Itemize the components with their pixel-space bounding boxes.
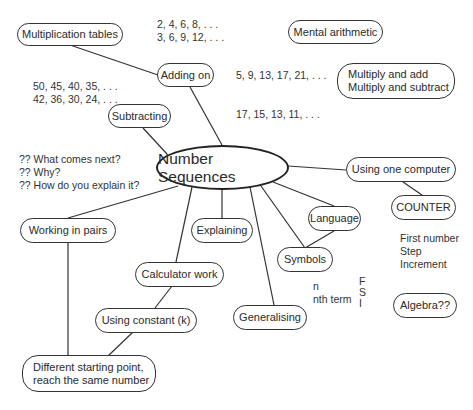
note-sequence-5-9: 5, 9, 13, 17, 21, . . .	[236, 69, 326, 82]
note-line: 3, 6, 9, 12, . . .	[157, 31, 224, 44]
different-starting-line1: Different starting point,	[33, 361, 143, 374]
edge-computer-counter	[403, 182, 422, 195]
edge-center-computer	[288, 166, 346, 170]
note-line: Step	[400, 245, 459, 258]
note-line: n	[313, 280, 352, 293]
different-starting-line2: reach the same number	[33, 374, 149, 387]
node-multiply-add-subtract: Multiply and add Multiply and subtract	[337, 63, 455, 99]
edge-center-calculator	[176, 187, 192, 262]
note-line: 2, 4, 6, 8, . . .	[157, 18, 224, 31]
node-mental-arithmetic: Mental arithmetic	[288, 20, 383, 44]
note-counter-params: First number Step Increment	[400, 232, 459, 271]
multiply-subtract-label: Multiply and subtract	[348, 81, 449, 94]
node-symbols: Symbols	[277, 247, 333, 272]
edge-adding-center	[190, 87, 222, 145]
note-line: 50, 45, 40, 35, . . .	[33, 80, 118, 93]
note-questions: ?? What comes next? ?? Why? ?? How do yo…	[19, 153, 139, 192]
node-multiplication-tables: Multiplication tables	[17, 23, 123, 46]
note-line: First number	[400, 232, 459, 245]
node-counter: COUNTER	[391, 195, 456, 220]
node-language: Language	[308, 206, 361, 231]
node-different-starting-point: Different starting point, reach the same…	[22, 355, 156, 392]
note-line: I	[359, 298, 366, 309]
node-explaining: Explaining	[191, 218, 253, 243]
note-nth-term: n nth term	[313, 280, 352, 306]
edge-calculator-constant	[155, 286, 172, 308]
edge-center-symbols	[261, 186, 305, 248]
note-line: Increment	[400, 258, 459, 271]
node-calculator-work: Calculator work	[135, 262, 224, 287]
node-subtracting: Subtracting	[108, 104, 171, 128]
edge-constant-different	[108, 332, 133, 356]
node-algebra: Algebra??	[393, 293, 457, 318]
node-number-sequences: Number Sequences	[156, 145, 289, 190]
node-generalising: Generalising	[233, 305, 307, 330]
edge-center-language	[273, 182, 334, 206]
note-line: nth term	[313, 293, 352, 306]
node-using-one-computer: Using one computer	[346, 157, 456, 182]
edge-multiplication-adding	[70, 45, 158, 75]
multiply-add-label: Multiply and add	[348, 68, 428, 81]
note-sequence-17-15: 17, 15, 13, 11, . . .	[236, 108, 320, 121]
note-line: 42, 36, 30, 24, . . .	[33, 93, 118, 106]
edge-center-generalising	[250, 187, 274, 305]
note-adding-sequences: 2, 4, 6, 8, . . . 3, 6, 9, 12, . . .	[157, 18, 224, 44]
node-working-in-pairs: Working in pairs	[20, 218, 116, 243]
note-line: ?? How do you explain it?	[19, 179, 139, 192]
edge-language-symbols	[305, 231, 334, 248]
node-using-constant: Using constant (k)	[95, 308, 197, 333]
node-adding-on: Adding on	[157, 63, 214, 87]
note-fsi: F S I	[359, 276, 366, 309]
note-line: ?? What comes next?	[19, 153, 139, 166]
note-subtracting-sequences: 50, 45, 40, 35, . . . 42, 36, 30, 24, . …	[33, 80, 118, 106]
note-line: ?? Why?	[19, 166, 139, 179]
